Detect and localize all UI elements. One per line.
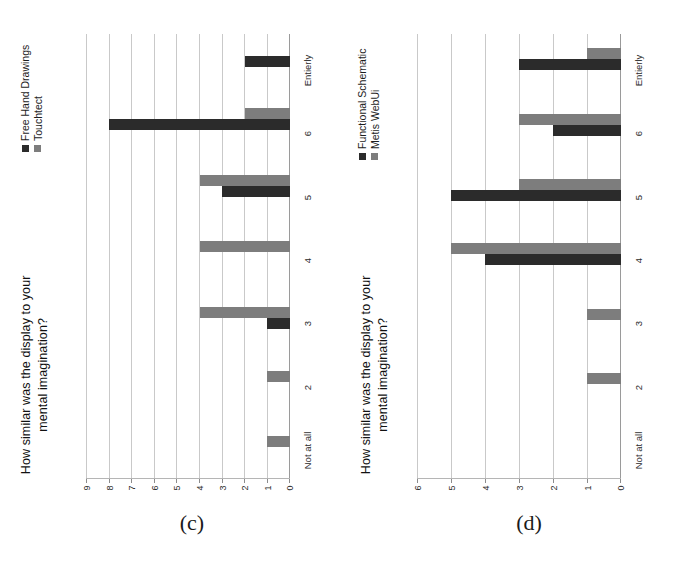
category-band xyxy=(86,414,290,477)
bar-series-1 xyxy=(587,373,621,384)
category-label: Entierly xyxy=(302,41,313,101)
legend-item: Free Hand Drawings xyxy=(20,45,31,152)
bar-series-0 xyxy=(245,56,290,67)
bar-series-0 xyxy=(109,119,290,130)
category-band xyxy=(86,351,290,414)
legend-label: Metis WebUi xyxy=(370,90,381,149)
panel-c-plot-area xyxy=(86,34,290,478)
chart-panel-c: How similar was the display to your ment… xyxy=(0,0,337,570)
category-label: Not at all xyxy=(302,421,313,481)
bar-series-0 xyxy=(267,318,290,329)
bar-series-0 xyxy=(485,254,621,265)
legend-swatch-icon xyxy=(371,153,378,160)
value-tick-label: 4 xyxy=(195,474,205,502)
category-band xyxy=(417,351,621,414)
category-label: 6 xyxy=(302,119,313,149)
legend-label: Free Hand Drawings xyxy=(20,45,31,141)
bar-series-1 xyxy=(587,309,621,320)
category-band xyxy=(417,161,621,224)
bar-series-0 xyxy=(519,59,621,70)
bar-series-1 xyxy=(267,436,290,447)
bar-series-1 xyxy=(267,371,290,382)
bar-series-1 xyxy=(451,243,621,254)
bar-series-1 xyxy=(200,307,290,318)
bar-series-1 xyxy=(519,179,621,190)
panel-d-legend: Functional Schematic Metis WebUi xyxy=(357,49,382,160)
value-tick-label: 2 xyxy=(240,474,250,502)
bar-series-1 xyxy=(587,48,621,59)
legend-swatch-icon xyxy=(34,145,41,152)
value-tick-label: 1 xyxy=(263,474,273,502)
category-band xyxy=(86,34,290,97)
legend-item: Touchtect xyxy=(33,45,44,152)
category-band xyxy=(86,97,290,160)
category-band xyxy=(417,97,621,160)
value-tick-label: 2 xyxy=(549,474,559,502)
category-label: 2 xyxy=(633,373,644,403)
value-tick-label: 3 xyxy=(218,474,228,502)
category-band xyxy=(417,414,621,477)
category-label: Not at all xyxy=(633,421,644,481)
value-tick-label: 0 xyxy=(285,474,295,502)
value-tick-label: 8 xyxy=(105,474,115,502)
panel-c-legend: Free Hand Drawings Touchtect xyxy=(20,45,45,152)
category-band xyxy=(86,288,290,351)
legend-item: Metis WebUi xyxy=(370,49,381,160)
category-band xyxy=(86,161,290,224)
value-tick-label: 6 xyxy=(150,474,160,502)
category-label: 4 xyxy=(302,246,313,276)
category-label: 3 xyxy=(633,309,644,339)
bar-series-0 xyxy=(553,125,621,136)
category-label: 6 xyxy=(633,119,644,149)
legend-item: Functional Schematic xyxy=(357,49,368,160)
value-tick-label: 1 xyxy=(583,474,593,502)
legend-swatch-icon xyxy=(359,153,366,160)
category-band xyxy=(417,34,621,97)
value-tick-label: 5 xyxy=(172,474,182,502)
panel-d-axis-title: How similar was the display to your ment… xyxy=(358,235,392,515)
bar-series-0 xyxy=(222,186,290,197)
category-label: 4 xyxy=(633,246,644,276)
bar-series-0 xyxy=(451,190,621,201)
value-tick-label: 0 xyxy=(616,474,626,502)
bar-series-1 xyxy=(519,114,621,125)
legend-swatch-icon xyxy=(22,145,29,152)
chart-panel-d: How similar was the display to your ment… xyxy=(337,0,674,570)
value-tick-label: 3 xyxy=(515,474,525,502)
legend-label: Functional Schematic xyxy=(357,49,368,149)
panel-caption-d: (d) xyxy=(489,510,569,536)
value-tick-label: 6 xyxy=(413,474,423,502)
value-axis-line xyxy=(86,478,290,479)
category-label: 5 xyxy=(633,183,644,213)
bar-series-1 xyxy=(200,175,290,186)
value-tick-label: 9 xyxy=(82,474,92,502)
bar-series-1 xyxy=(200,241,290,252)
category-band xyxy=(86,224,290,287)
category-label: 5 xyxy=(302,183,313,213)
value-tick-label: 5 xyxy=(447,474,457,502)
value-tick-label: 4 xyxy=(481,474,491,502)
category-label: 3 xyxy=(302,309,313,339)
category-label: Entierly xyxy=(633,41,644,101)
bar-series-1 xyxy=(245,108,290,119)
category-label: 2 xyxy=(302,373,313,403)
panel-caption-c: (c) xyxy=(152,510,232,536)
figure-two-panel-bar-charts: How similar was the display to your ment… xyxy=(0,0,674,570)
value-tick-label: 7 xyxy=(127,474,137,502)
legend-label: Touchtect xyxy=(33,96,44,141)
panel-d-plot-area xyxy=(417,34,621,478)
category-band xyxy=(417,288,621,351)
panel-c-axis-title: How similar was the display to your ment… xyxy=(18,235,52,515)
category-band xyxy=(417,224,621,287)
